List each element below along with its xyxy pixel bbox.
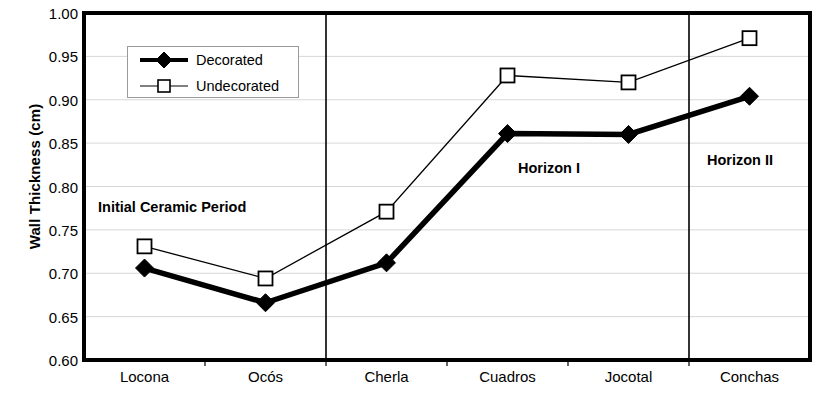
x-tick-label: Ocós: [248, 368, 283, 385]
chart-figure: Wall Thickness (cm) 1.00 0.95 0.90 0.85 …: [0, 0, 818, 399]
decorated-series-icon: [136, 47, 192, 73]
annotation-initial-ceramic-period: Initial Ceramic Period: [98, 199, 246, 215]
legend: Decorated Undecorated: [127, 46, 299, 98]
legend-entry-decorated: Decorated: [128, 47, 298, 73]
x-tick-label: Jocotal: [605, 368, 653, 385]
annotation-horizon-ii: Horizon II: [707, 152, 773, 168]
x-tick-label: Conchas: [720, 368, 779, 385]
x-tick-label: Cherla: [364, 368, 408, 385]
legend-entry-undecorated: Undecorated: [128, 73, 298, 99]
x-tick-label: Cuadros: [479, 368, 536, 385]
legend-label: Decorated: [196, 52, 263, 68]
legend-label: Undecorated: [196, 78, 279, 94]
x-tick-label: Locona: [120, 368, 169, 385]
annotation-horizon-i: Horizon I: [518, 160, 580, 176]
undecorated-series-icon: [136, 73, 192, 99]
